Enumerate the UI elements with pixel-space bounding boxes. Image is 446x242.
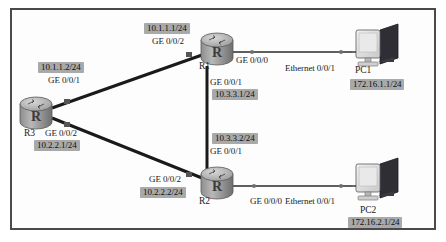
label-r1-ge001-ip: 10.3.3.1/24: [212, 89, 258, 100]
label-pc2-ip: 172.16.2.1/24: [348, 217, 402, 228]
label-pc1-if: Ethernet 0/0/1: [285, 63, 335, 74]
label-r2-ge002-ip: 10.2.2.2/24: [140, 187, 186, 198]
label-r1-ge002-ip: 10.1.1.1/24: [144, 23, 190, 34]
device-label-pc1: PC1: [355, 65, 371, 76]
link-dot-r1-pc1-b: [339, 50, 343, 54]
network-diagram-canvas: R R R: [0, 0, 446, 242]
label-r1-ge000-if: GE 0/0/0: [236, 55, 268, 66]
label-r3-ge002-if: GE 0/0/2: [45, 128, 77, 139]
label-r1-ge001-if: GE 0/0/1: [210, 77, 242, 88]
link-endpoint-r3-r1-a: [64, 99, 70, 104]
device-label-r2: R2: [199, 196, 210, 207]
label-pc1-ip: 172.16.1.1/24: [350, 79, 404, 90]
label-r3-ge001-if: GE 0/0/1: [48, 75, 80, 86]
link-dot-r1-pc1-a: [250, 50, 254, 54]
label-r3-ge002-ip: 10.2.2.1/24: [34, 140, 80, 151]
label-r2-ge001-ip: 10.3.3.2/24: [212, 133, 258, 144]
link-endpoint-r3-r2-a: [64, 122, 70, 127]
link-endpoint-r3-r2-b: [186, 172, 192, 177]
label-r3-ge001-ip: 10.1.1.2/24: [38, 62, 84, 73]
label-r2-ge002-if: GE 0/0/2: [149, 174, 181, 185]
pc-icon-pc1[interactable]: [352, 24, 398, 66]
svg-text:R: R: [212, 45, 223, 60]
router-icon-r2[interactable]: R: [201, 167, 233, 199]
link-endpoint-r3-r1-b: [186, 52, 192, 57]
link-dot-r2-pc2-a: [252, 184, 256, 188]
pc-icon-pc2[interactable]: [352, 158, 398, 200]
label-r2-ge001-if: GE 0/0/1: [210, 146, 242, 157]
label-pc2-if: Ethernet 0/0/1: [285, 196, 335, 207]
device-label-pc2: PC2: [360, 205, 376, 216]
link-dot-r2-pc2-b: [339, 184, 343, 188]
svg-text:R: R: [212, 179, 223, 194]
label-r2-ge000-if: GE 0/0/0: [250, 196, 282, 207]
router-icon-r3[interactable]: R: [20, 97, 52, 129]
device-label-r1: R1: [199, 61, 210, 72]
label-r1-ge002-if: GE 0/0/2: [152, 36, 184, 47]
device-label-r3: R3: [24, 128, 35, 139]
topology-links-layer: R R R: [0, 0, 446, 242]
svg-text:R: R: [31, 109, 42, 124]
